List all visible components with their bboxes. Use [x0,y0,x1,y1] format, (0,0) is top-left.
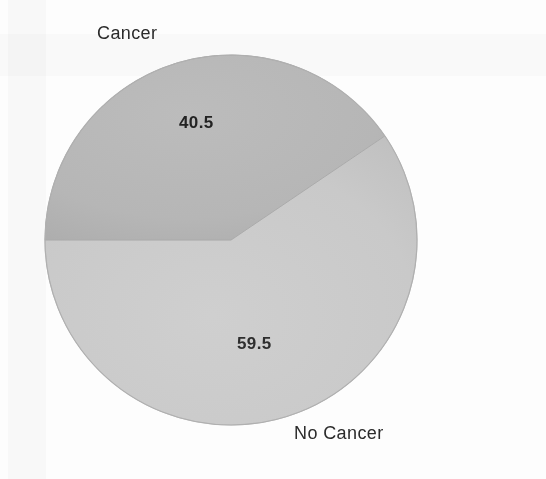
pie-label-cancer: Cancer [97,23,157,44]
pie-chart-svg [0,0,546,479]
pie-chart-figure: Cancer 40.5 59.5 No Cancer [0,0,546,479]
pie-value-label-cancer: 40.5 [179,113,214,133]
pie-label-no-cancer: No Cancer [294,423,384,444]
pie-chart-plot-area: Cancer 40.5 59.5 No Cancer [0,0,546,479]
pie-value-label-no-cancer: 59.5 [237,334,272,354]
